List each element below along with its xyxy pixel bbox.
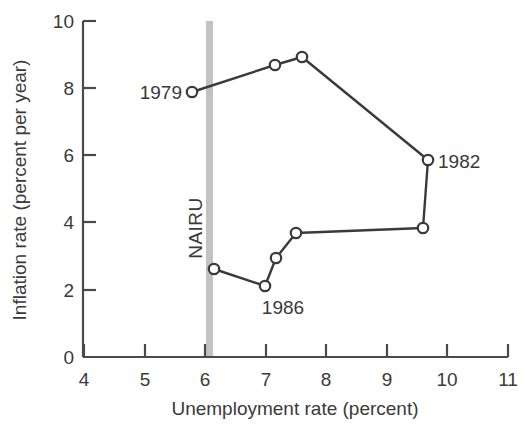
- y-tick-labels: 10 8 6 4 2 0: [53, 11, 75, 368]
- data-point: [423, 155, 433, 165]
- label-1979: 1979: [140, 82, 182, 103]
- series-line: [192, 57, 428, 286]
- y-tick-label: 10: [53, 11, 74, 32]
- y-tick-label: 0: [63, 347, 74, 368]
- data-point: [270, 60, 280, 70]
- x-tick-label: 4: [79, 369, 90, 390]
- x-axis-title: Unemployment rate (percent): [171, 398, 418, 419]
- series-markers: [187, 52, 433, 291]
- y-axis-ticks: [83, 21, 96, 290]
- label-1982: 1982: [438, 151, 480, 172]
- chart-plot-area: 10 8 6 4 2 0 4 5 6 7 8 9 10 11 Unemploym…: [0, 0, 530, 437]
- data-point: [297, 52, 307, 62]
- data-point: [271, 253, 281, 263]
- x-tick-label: 9: [382, 369, 393, 390]
- x-tick-label: 7: [261, 369, 272, 390]
- data-point: [209, 264, 219, 274]
- y-tick-label: 8: [63, 78, 74, 99]
- x-tick-label: 10: [436, 369, 457, 390]
- x-tick-label: 6: [200, 369, 211, 390]
- data-point: [260, 281, 270, 291]
- x-tick-label: 5: [140, 369, 151, 390]
- y-tick-label: 2: [63, 280, 74, 301]
- x-tick-label: 11: [498, 369, 518, 390]
- y-tick-label: 4: [63, 212, 74, 233]
- data-point: [291, 228, 301, 238]
- data-point: [187, 87, 197, 97]
- data-point: [418, 223, 428, 233]
- label-1986: 1986: [262, 297, 304, 318]
- x-tick-labels: 4 5 6 7 8 9 10 11: [79, 369, 518, 390]
- y-axis-title: Inflation rate (percent per year): [9, 60, 30, 321]
- y-tick-label: 6: [63, 145, 74, 166]
- phillips-curve-chart: 10 8 6 4 2 0 4 5 6 7 8 9 10 11 Unemploym…: [0, 0, 530, 437]
- nairu-band: [206, 21, 213, 357]
- x-axis-ticks: [84, 344, 508, 357]
- x-tick-label: 8: [321, 369, 332, 390]
- nairu-label: NAIRU: [185, 197, 206, 259]
